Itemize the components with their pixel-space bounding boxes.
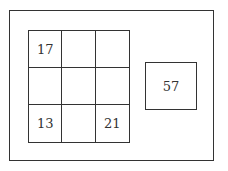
- grid-cell-r3c2: [62, 105, 95, 142]
- grid-cell-r2c3: [96, 68, 129, 105]
- grid-cell-r1c1: 17: [29, 31, 62, 68]
- grid-cell-r1c3: [96, 31, 129, 68]
- grid-cell-r2c2: [62, 68, 95, 105]
- grid-cell-r3c3: 21: [96, 105, 129, 142]
- side-value-box: 57: [145, 62, 197, 110]
- grid-cell-r3c1: 13: [29, 105, 62, 142]
- grid-cell-r1c2: [62, 31, 95, 68]
- grid-cell-r2c1: [29, 68, 62, 105]
- number-grid: 17 13 21: [28, 30, 130, 143]
